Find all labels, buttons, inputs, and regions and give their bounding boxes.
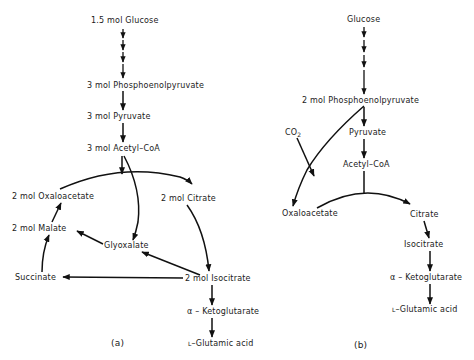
arrow-a-glyoxalate-to-malate	[77, 231, 103, 244]
node-a-glutamic-acid: L–Glutamic acid	[188, 339, 253, 348]
node-b-glucose: Glucose	[347, 15, 380, 24]
node-b-acetyl-coa: Acetyl–CoA	[343, 160, 390, 169]
arrow-a-oxaloacetate-to-citrate	[60, 172, 192, 189]
arrow-b-pep-to-oxaloacetate	[293, 106, 364, 206]
panel-a: 1.5 mol Glucose 3 mol Phosphoenolpyruvat…	[12, 16, 259, 348]
node-b-oxaloacetate: Oxaloacetate	[282, 209, 338, 218]
arrow-b-oxaloacetate-to-citrate	[317, 193, 410, 208]
arrow-a-isocitrate-to-glyoxalate	[142, 252, 200, 275]
node-b-pyruvate: Pyruvate	[349, 128, 386, 137]
node-b-phosphoenolpyruvate: 2 mol Phosphoenolpyruvate	[302, 96, 419, 105]
node-b-isocitrate: Isocitrate	[404, 240, 443, 249]
node-a-glucose: 1.5 mol Glucose	[91, 16, 159, 25]
arrow-a-isocitrate-to-succinate	[63, 277, 183, 278]
arrow-a-malate-to-oxaloacetate	[52, 203, 61, 222]
arrow-a-citrate-to-isocitrate	[187, 205, 209, 271]
panel-b: Glucose 2 mol Phosphoenolpyruvate CO2 Py…	[282, 15, 462, 350]
arrow-b-citrate-to-isocitrate	[424, 221, 429, 238]
node-a-oxaloacetate: 2 mol Oxaloacetate	[12, 192, 94, 201]
node-a-ketoglutarate: α – Ketoglutarate	[187, 307, 259, 316]
node-b-glutamic-acid: L–Glutamic acid	[392, 305, 457, 314]
node-b-co2: CO2	[285, 128, 301, 138]
node-a-malate: 2 mol Malate	[12, 224, 66, 233]
arrow-a-acetylcoa-to-glyoxalate	[124, 156, 139, 240]
node-b-ketoglutarate: α – Ketoglutarate	[390, 273, 462, 282]
node-a-pyruvate: 3 mol Pyruvate	[87, 112, 151, 121]
node-b-citrate: Citrate	[410, 210, 439, 219]
node-a-phosphoenolpyruvate: 3 mol Phosphoenolpyruvate	[87, 81, 204, 90]
node-a-acetyl-coa: 3 mol Acetyl–CoA	[87, 144, 160, 153]
panel-a-caption: (a)	[111, 338, 124, 348]
node-a-isocitrate: 2 mol Isocitrate	[185, 274, 251, 283]
panel-b-caption: (b)	[354, 340, 367, 350]
node-a-succinate: Succinate	[15, 273, 56, 282]
node-a-glyoxalate: Glyoxalate	[104, 241, 149, 250]
arrow-a-succinate-to-malate	[42, 235, 49, 272]
metabolic-pathway-diagram: 1.5 mol Glucose 3 mol Phosphoenolpyruvat…	[0, 0, 474, 360]
arrow-b-co2-to-oxaloacetate	[297, 138, 314, 176]
node-a-citrate: 2 mol Citrate	[161, 194, 216, 203]
